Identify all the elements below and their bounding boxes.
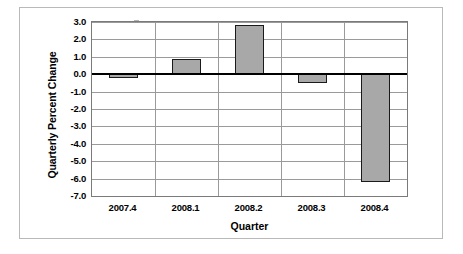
gridline-horizontal	[92, 179, 407, 180]
x-axis-tick-labels: 2007.42008.12008.22008.32008.4	[91, 202, 408, 218]
x-tick-label: 2008.4	[361, 202, 389, 213]
x-axis-title: Quarter	[91, 220, 408, 232]
bar-2008.1	[172, 59, 200, 75]
x-tick-label: 2008.1	[172, 202, 200, 213]
y-axis-tick-labels: 3.02.01.00.0-1.0-2.0-3.0-4.0-5.0-6.0-7.0	[48, 21, 88, 197]
gridline-horizontal	[92, 196, 407, 197]
y-tick-label: 0.0	[73, 68, 86, 79]
y-tick-label: 1.0	[73, 50, 86, 61]
y-tick-label: 2.0	[73, 33, 86, 44]
gridline-horizontal	[92, 92, 407, 93]
y-tick-label: -7.0	[70, 190, 86, 201]
bar-2008.4	[361, 74, 389, 182]
bar-2008.2	[235, 25, 263, 74]
plot-area	[91, 21, 408, 197]
y-tick-label: -2.0	[70, 103, 86, 114]
gridline-vertical	[155, 22, 156, 196]
gridline-vertical	[344, 22, 345, 196]
chart-figure: Quarterly Percent Change 3.02.01.00.0-1.…	[0, 0, 463, 254]
zero-line	[92, 73, 407, 75]
gridline-horizontal	[92, 126, 407, 127]
y-tick-label: -4.0	[70, 137, 86, 148]
gridline-horizontal	[92, 144, 407, 145]
x-tick-label: 2007.4	[109, 202, 137, 213]
x-tick-label: 2008.2	[235, 202, 263, 213]
y-tick-label: -5.0	[70, 155, 86, 166]
bar-2008.3	[298, 74, 326, 83]
x-tick-label: 2008.3	[298, 202, 326, 213]
y-tick-label: 3.0	[73, 16, 86, 27]
gridline-vertical	[281, 22, 282, 196]
y-tick-label: -3.0	[70, 120, 86, 131]
gridline-horizontal	[92, 109, 407, 110]
gridline-horizontal	[92, 161, 407, 162]
gridline-horizontal	[92, 22, 407, 23]
y-tick-label: -6.0	[70, 172, 86, 183]
gridline-vertical	[218, 22, 219, 196]
y-tick-label: -1.0	[70, 85, 86, 96]
